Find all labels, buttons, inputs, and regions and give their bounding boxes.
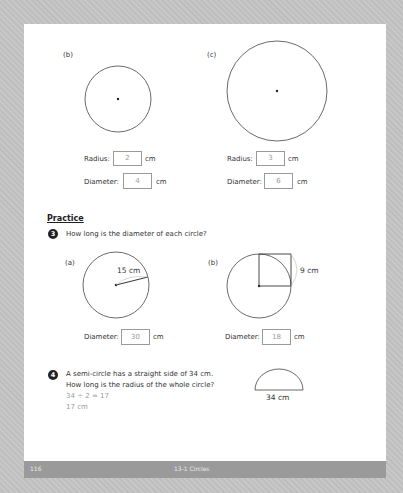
circle-b-figure (85, 66, 151, 132)
unit-label: cm (288, 155, 299, 163)
diameter-answer-box[interactable]: 6 (264, 173, 293, 189)
radius-answer-box[interactable]: 2 (113, 151, 142, 166)
unit-label: cm (156, 178, 167, 186)
radius-measure-label: 15 cm (117, 266, 140, 275)
diameter-label: Diameter: (225, 333, 260, 341)
radius-label: Radius: (227, 155, 253, 163)
diameter-label: Diameter: (84, 178, 119, 186)
circle-c-figure (227, 41, 327, 141)
practice-b-label: (b) (208, 259, 218, 267)
unit-label: cm (297, 178, 308, 186)
practice-heading: Practice (47, 214, 84, 223)
question-3-text: How long is the diameter of each circle? (66, 229, 207, 240)
question-4-badge: 4 (48, 370, 58, 380)
diameter-answer-box[interactable]: 18 (262, 329, 291, 345)
page-footer: 116 13-1 Circles (24, 461, 386, 478)
semicircle-figure (255, 369, 303, 390)
answer-work-line-2[interactable]: 17 cm (66, 402, 88, 413)
diameter-label: Diameter: (84, 333, 119, 341)
diameter-label: Diameter: (227, 178, 262, 186)
unit-label: cm (153, 333, 164, 341)
radius-label: Radius: (84, 155, 110, 163)
question-3-badge: 3 (48, 229, 58, 239)
practice-a-label: (a) (65, 259, 75, 267)
question-4-line-2: How long is the radius of the whole circ… (66, 380, 214, 391)
answer-work-line-1[interactable]: 34 ÷ 2 = 17 (66, 391, 109, 402)
example-c-label: (c) (207, 51, 216, 59)
radius-answer-box[interactable]: 3 (256, 151, 285, 166)
practice-a-figure (83, 252, 149, 318)
unit-label: cm (145, 155, 156, 163)
example-b-label: (b) (63, 51, 73, 59)
unit-label: cm (294, 333, 305, 341)
semicircle-measure-label: 34 cm (266, 393, 289, 402)
chapter-title: 13-1 Circles (174, 465, 210, 472)
diameter-answer-box[interactable]: 4 (123, 173, 152, 189)
practice-b-figure (227, 254, 297, 318)
worksheet-figures (0, 0, 403, 493)
side-measure-label: 9 cm (300, 266, 319, 275)
diameter-answer-box[interactable]: 30 (121, 329, 150, 345)
page-number: 116 (30, 465, 41, 472)
question-4-line-1: A semi-circle has a straight side of 34 … (66, 369, 213, 380)
